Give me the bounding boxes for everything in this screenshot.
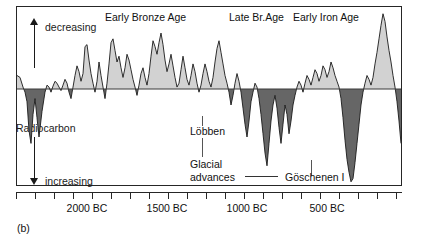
x-axis-tick-17	[339, 193, 340, 199]
annotation-glacial-advances-line1: Glacial	[190, 158, 222, 170]
x-axis-tick-6	[130, 193, 131, 199]
figure-radiocarbon-chart: Early Bronze Age Late Br.Age Early Iron …	[0, 0, 422, 242]
x-axis-tick-8	[168, 193, 169, 199]
x-axis-tick-7	[149, 193, 150, 199]
x-axis-tick-14	[282, 193, 283, 199]
leader-line-glacial	[202, 138, 203, 157]
annotation-goschenen: Göschenen I	[285, 171, 345, 183]
x-axis-tick-label-3: 500 BC	[309, 202, 344, 214]
x-axis-tick-10	[206, 193, 207, 199]
x-axis-tick-13	[263, 193, 264, 199]
x-axis-tick-label-1: 1500 BC	[147, 202, 188, 214]
x-axis-tick-label-0: 2000 BC	[67, 202, 108, 214]
x-axis-tick-4	[92, 193, 93, 199]
x-axis-tick-15	[301, 193, 302, 199]
x-axis-tick-5	[111, 193, 112, 199]
leader-line-goschenen-horizontal	[245, 176, 278, 177]
x-axis-tick-19	[377, 193, 378, 199]
x-axis-tick-1	[35, 193, 36, 199]
x-axis-tick-16	[320, 193, 321, 199]
x-axis-tick-12	[244, 193, 245, 199]
annotation-lobben: Löbben	[190, 125, 225, 137]
x-axis-tick-18	[358, 193, 359, 199]
x-axis-tick-11	[225, 193, 226, 199]
x-axis-tick-0	[16, 193, 17, 199]
x-axis-tick-20	[396, 193, 397, 199]
x-axis-tick-label-2: 1000 BC	[227, 202, 268, 214]
x-axis-tick-9	[187, 193, 188, 199]
x-axis-tick-2	[54, 193, 55, 199]
annotation-glacial-advances-line2: advances	[190, 171, 235, 183]
figure-label: (b)	[17, 222, 30, 234]
x-axis-tick-3	[73, 193, 74, 199]
